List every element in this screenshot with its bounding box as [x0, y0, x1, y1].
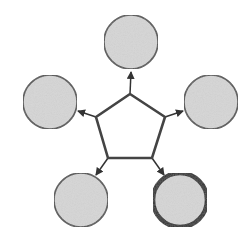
node-circle-top: [104, 15, 158, 69]
hub-spoke-diagram: [0, 0, 249, 251]
diagram-canvas: [0, 0, 249, 251]
node-circle-bottom-left: [54, 173, 108, 227]
arrow-to-top: [130, 72, 131, 94]
arrow-to-bottom-left: [96, 158, 108, 175]
arrow-to-right: [165, 111, 183, 117]
arrow-to-left: [78, 111, 96, 117]
hub-layer: [96, 94, 165, 158]
arrow-to-bottom-right: [152, 158, 164, 175]
hub-pentagon: [96, 94, 165, 158]
node-circle-right: [184, 75, 238, 129]
node-circle-bottom-right-highlighted: [153, 173, 207, 227]
node-circle-left: [23, 75, 77, 129]
